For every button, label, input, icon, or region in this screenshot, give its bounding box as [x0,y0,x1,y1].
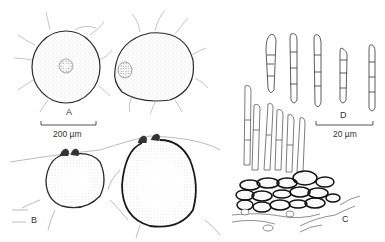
panel-a-ascoma-left [14,12,112,112]
spore-1 [266,34,276,92]
panel-label-d: D [340,111,347,120]
spore-5 [369,45,375,111]
spore-2 [290,34,297,103]
scale-bar-d [316,121,373,125]
scale-label-d: 20 µm [333,130,357,139]
panel-d-spores [266,34,375,111]
figure-plate: A 200 µm B C D 20 µm [0,0,385,242]
scale-bar-a [41,121,96,125]
panel-label-c: C [342,215,349,224]
panel-label-a: A [66,108,72,117]
spore-4 [340,48,347,103]
spore-3 [314,35,321,107]
panel-label-b: B [31,216,37,225]
panel-c-stroma [236,171,340,212]
panel-b-ascoma-small [46,149,104,208]
scale-label-a: 200 µm [53,130,82,139]
illustration-drawing [0,0,385,242]
panel-a-ascoma-right [115,10,208,114]
panel-b-ascoma-large [122,134,196,227]
